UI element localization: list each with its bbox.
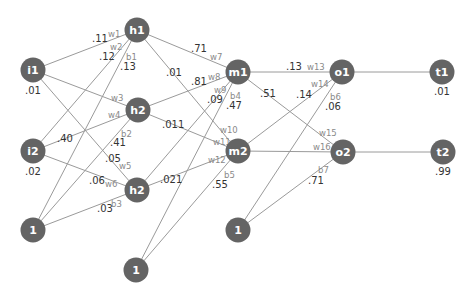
edge-labels: .11 w1 w2 .12 b1 .13 w3 w4 .40 b2 .41 .0… <box>57 29 341 214</box>
node-o1: o1 <box>330 60 355 85</box>
edge-value-w13: .13 <box>286 61 302 72</box>
node-label-o2: o2 <box>335 146 350 159</box>
edge-name-w15: w15 <box>319 128 337 138</box>
node-bias-mid: 1 <box>226 218 251 243</box>
edge-value-b2: .41 <box>110 137 126 148</box>
edge-name-w14: w14 <box>311 79 329 89</box>
edge-name-w6: w6 <box>105 179 117 189</box>
node-label-i2: i2 <box>27 145 38 158</box>
edge-b3 <box>33 190 137 230</box>
edge-value-b6: .06 <box>325 101 341 112</box>
node-label-h2: h2 <box>130 104 146 117</box>
edge-value-w14: .14 <box>296 89 312 100</box>
node-h3: h2 <box>125 178 150 203</box>
edge-value-w15: .51 <box>260 88 276 99</box>
edge-w7 <box>137 30 238 72</box>
node-label-m1: m1 <box>228 66 247 79</box>
node-label-bias-hidden: 1 <box>132 264 140 277</box>
edge-value-w4: .40 <box>57 133 73 144</box>
node-value-i1: .01 <box>25 85 41 96</box>
edge-value-b1: .13 <box>120 61 136 72</box>
edge-value-w11: .011 <box>162 119 184 130</box>
edge-b5 <box>136 151 238 270</box>
edge-value-b4: .47 <box>226 100 242 111</box>
node-i2: i2 <box>21 139 46 164</box>
edge-name-b3: b3 <box>111 199 122 209</box>
edge-name-w16: w16 <box>313 142 331 152</box>
node-label-t1: t1 <box>436 66 449 79</box>
node-label-m2: m2 <box>228 145 247 158</box>
edge-name-b7: b7 <box>318 165 329 175</box>
edge-name-w5: w5 <box>119 161 131 171</box>
edge-value-w12: .021 <box>160 174 182 185</box>
node-label-bias-mid: 1 <box>234 224 242 237</box>
node-bias-hidden: 1 <box>124 258 149 283</box>
edge-b7 <box>238 152 343 230</box>
edge-value-w2: .12 <box>99 51 115 62</box>
edge-name-w4: w4 <box>108 110 120 120</box>
node-label-i1: i1 <box>27 64 38 77</box>
edge-name-w1: w1 <box>108 29 120 39</box>
node-t1: t1 <box>430 60 455 85</box>
edge-value-w9: .09 <box>207 94 223 105</box>
edge-value-w7: .71 <box>191 43 207 54</box>
edge-name-w3: w3 <box>111 93 123 103</box>
neural-network-diagram: .11 w1 w2 .12 b1 .13 w3 w4 .40 b2 .41 .0… <box>0 0 468 300</box>
node-label-o1: o1 <box>334 66 349 79</box>
node-m1: m1 <box>226 60 251 85</box>
node-value-i2: .02 <box>25 166 41 177</box>
node-i1: i1 <box>21 58 46 83</box>
node-bias-input: 1 <box>21 218 46 243</box>
node-value-t1: .01 <box>434 86 450 97</box>
node-t2: t2 <box>431 140 456 165</box>
edge-value-w1: .11 <box>92 33 108 44</box>
edge-value-w8: .81 <box>191 76 207 87</box>
node-h2: h2 <box>126 98 151 123</box>
edge-name-w12: w12 <box>208 155 226 165</box>
node-value-t2: .99 <box>435 166 451 177</box>
node-m2: m2 <box>226 139 251 164</box>
node-label-t2: t2 <box>437 146 450 159</box>
edge-value-b7: .71 <box>308 175 324 186</box>
edge-value-w6: .06 <box>89 175 105 186</box>
node-label-h1: h1 <box>129 24 145 37</box>
node-o2: o2 <box>331 140 356 165</box>
edge-name-w8: w8 <box>208 72 220 82</box>
node-label-bias-input: 1 <box>29 224 37 237</box>
edge-value-w10: .01 <box>166 67 182 78</box>
edge-name-w7: w7 <box>210 52 222 62</box>
nodes: i1 .01 i2 .02 1 h1 h2 h2 1 <box>21 18 456 283</box>
edge-name-w13: w13 <box>307 62 325 72</box>
edge-w3 <box>33 70 138 110</box>
node-h1: h1 <box>125 18 150 43</box>
edge-name-w10: w10 <box>220 125 238 135</box>
edge-value-b5: .55 <box>212 179 228 190</box>
node-label-h3: h2 <box>129 184 145 197</box>
